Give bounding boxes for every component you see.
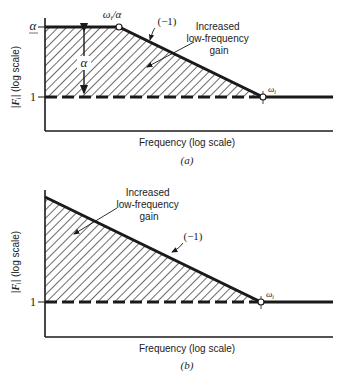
breakpoint-label: ωi/α: [103, 8, 122, 22]
corner-marker: [260, 94, 266, 100]
y-axis-label: |Fi| (log scale): [10, 231, 22, 293]
corner-frequency-label: ωi: [268, 84, 276, 95]
alpha-gap-label: α: [81, 55, 89, 70]
x-axis-label: Frequency (log scale): [139, 343, 235, 354]
x-axis-label: Frequency (log scale): [139, 137, 235, 148]
breakpoint-marker: [116, 24, 122, 30]
corner-frequency-label: ωi: [266, 289, 274, 300]
increased-gain-annotation: Increased low-frequency gain: [116, 187, 181, 222]
slope-label: (−1): [157, 15, 176, 28]
panel-caption: (b): [181, 359, 194, 372]
slope-label: (−1): [183, 230, 202, 243]
corner-marker: [258, 299, 264, 305]
panel-caption: (a): [181, 154, 194, 167]
ytick-alpha: α: [30, 18, 38, 33]
y-axis-label: |Fi| (log scale): [10, 46, 22, 108]
increased-gain-annotation: Increased low-frequency gain: [186, 21, 251, 56]
ytick-one: 1: [30, 295, 36, 309]
panel-b: 1 |Fi| (log scale) ωi (−1) Increased low…: [10, 187, 333, 372]
ytick-one: 1: [30, 90, 36, 104]
bode-diagram: α α 1 |Fi| (log scale) ωi/α ωi (−1) Incr…: [0, 0, 346, 380]
panel-a: α α 1 |Fi| (log scale) ωi/α ωi (−1) Incr…: [10, 8, 333, 167]
